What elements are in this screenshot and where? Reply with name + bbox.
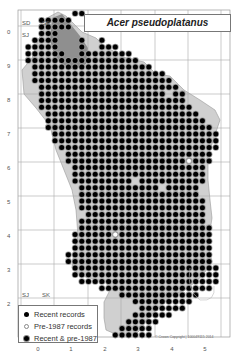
- copyright-notice: © Crown Copyright | 100049115 2014: [155, 335, 214, 339]
- x-axis-label: 0: [36, 346, 39, 352]
- legend-label: Pre-1987 records: [34, 322, 92, 331]
- y-axis-label: 4: [7, 233, 10, 239]
- x-axis-label: 2: [103, 346, 106, 352]
- x-axis-label: 4: [170, 346, 173, 352]
- y-axis-label: 6: [7, 165, 10, 171]
- grid-square-label: SJ: [22, 292, 29, 298]
- y-axis-label: 9: [7, 63, 10, 69]
- species-title: Acer pseudoplatanus: [84, 14, 231, 32]
- grid-square-label: SE: [42, 20, 50, 26]
- y-axis-label: 8: [7, 97, 10, 103]
- y-axis-label: 0: [7, 29, 10, 35]
- legend-label: Recent & pre-1987: [34, 334, 97, 343]
- y-axis-label: 7: [7, 131, 10, 137]
- y-axis-label: 2: [7, 301, 10, 307]
- legend-label: Recent records: [34, 310, 85, 319]
- y-axis-label: 3: [7, 267, 10, 273]
- grid-square-label: SJ: [22, 32, 29, 38]
- grid-square-label: SD: [22, 20, 30, 26]
- both-dot-icon: [24, 336, 29, 341]
- grid-square-label: SK: [42, 292, 50, 298]
- legend: Recent records Pre-1987 records Recent &…: [18, 305, 98, 343]
- legend-item-pre1987: Pre-1987 records: [19, 321, 97, 332]
- recent-dot-icon: [24, 312, 29, 317]
- y-axis-label: 5: [7, 199, 10, 205]
- pre1987-dot-icon: [24, 324, 29, 329]
- legend-item-recent: Recent records: [19, 309, 97, 320]
- x-axis-label: 3: [136, 346, 139, 352]
- legend-item-both: Recent & pre-1987: [19, 333, 97, 344]
- x-axis-label: 1: [69, 346, 72, 352]
- x-axis-label: 5: [203, 346, 206, 352]
